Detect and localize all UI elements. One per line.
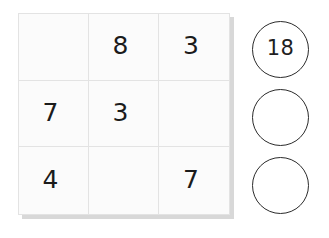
grid-cell-value-r2c1: 7 <box>43 100 59 125</box>
grid-cell-r3c1[interactable]: 4 <box>19 147 89 214</box>
number-grid: 8 3 7 3 4 7 <box>18 13 230 215</box>
puzzle-stage: 8 3 7 3 4 7 <box>0 0 329 238</box>
grid-cell-r1c3[interactable]: 3 <box>159 14 229 81</box>
grid-cell-value-r2c2: 3 <box>113 100 129 125</box>
answer-circle-1-value: 18 <box>267 38 295 59</box>
grid-cell-value-r1c2: 8 <box>113 33 129 58</box>
grid-cell-value-r1c3: 3 <box>183 33 199 58</box>
grid-cell-r2c1[interactable]: 7 <box>19 81 89 148</box>
grid-cell-r3c2[interactable] <box>89 147 159 214</box>
grid-cell-r2c3[interactable] <box>159 81 229 148</box>
grid-cell-r1c2[interactable]: 8 <box>89 14 159 81</box>
grid-cell-value-r3c1: 4 <box>43 167 59 192</box>
answer-circles-column: 18 <box>252 21 312 217</box>
answer-circle-2[interactable] <box>252 89 309 146</box>
answer-circle-1[interactable]: 18 <box>252 21 309 78</box>
grid-table: 8 3 7 3 4 7 <box>18 13 230 215</box>
answer-circle-3[interactable] <box>252 157 309 214</box>
grid-cell-r2c2[interactable]: 3 <box>89 81 159 148</box>
grid-cell-value-r3c3: 7 <box>183 167 199 192</box>
grid-cell-r3c3[interactable]: 7 <box>159 147 229 214</box>
grid-cell-r1c1[interactable] <box>19 14 89 81</box>
